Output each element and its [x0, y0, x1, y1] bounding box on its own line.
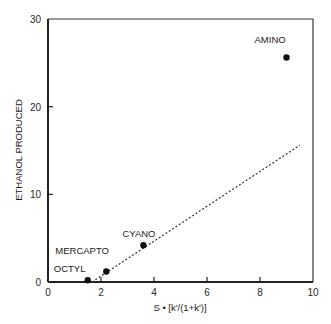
- data-point: [140, 242, 146, 248]
- fit-line: [92, 145, 300, 282]
- y-tick-label: 10: [30, 189, 42, 200]
- x-tick-label: 0: [45, 287, 51, 298]
- x-axis-label: S • [k'/(1+k')]: [153, 302, 206, 313]
- data-point: [85, 277, 91, 283]
- point-label: OCTYL: [54, 263, 86, 274]
- y-tick-label: 0: [35, 277, 41, 288]
- scatter-chart: 02468100102030 OCTYLMERCAPTOCYANOAMINO S…: [0, 0, 331, 324]
- x-tick-label: 10: [307, 287, 319, 298]
- data-point: [103, 268, 109, 274]
- x-tick-label: 6: [204, 287, 210, 298]
- point-label: CYANO: [122, 228, 155, 239]
- x-tick-label: 8: [257, 287, 263, 298]
- y-tick-label: 20: [30, 102, 42, 113]
- point-label: AMINO: [255, 34, 286, 45]
- x-tick-label: 2: [98, 287, 104, 298]
- point-label: MERCAPTO: [55, 245, 109, 256]
- data-points: OCTYLMERCAPTOCYANOAMINO: [54, 34, 290, 284]
- y-axis-label: ETHANOL PRODUCED: [13, 99, 24, 201]
- y-tick-label: 30: [30, 14, 42, 25]
- x-tick-label: 4: [151, 287, 157, 298]
- plot-frame: [48, 19, 313, 282]
- data-point: [283, 54, 289, 60]
